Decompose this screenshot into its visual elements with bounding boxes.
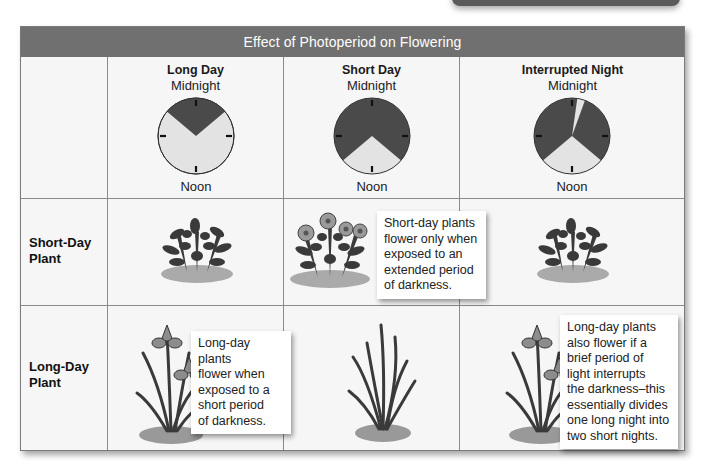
callout-line: light interrupts: [567, 367, 671, 383]
photoperiod-table: Effect of Photoperiod on Flowering Long …: [20, 26, 685, 451]
row-divider: [21, 198, 684, 199]
leafy-plant-no-flowers-icon: [343, 317, 423, 447]
column-header-interrupted-night: Interrupted Night Midnight: [460, 63, 685, 93]
callout-line: one long night into: [567, 413, 671, 429]
callout-line: Long-day plants: [198, 336, 284, 367]
row-label-short-day-plant: Short-Day Plant: [29, 235, 91, 267]
callout-line: Long-day plants: [567, 320, 671, 336]
callout-short-day: Short-day plants flower only when expose…: [377, 211, 486, 299]
callout-line: the darkness–this: [567, 382, 671, 398]
row-label-long-day-plant: Long-Day Plant: [29, 359, 89, 391]
callout-line: essentially divides: [567, 398, 671, 414]
callout-line: flower only when: [384, 232, 479, 248]
midnight-label: Midnight: [284, 78, 459, 93]
flowering-bush-plant-icon: [286, 207, 374, 291]
noon-label: Noon: [156, 179, 236, 194]
callout-line: also flower if a: [567, 336, 671, 352]
row-label-line: Long-Day: [29, 359, 89, 375]
row-label-line: Plant: [29, 375, 89, 391]
row-label-line: Plant: [29, 251, 91, 267]
callout-line: two short nights.: [567, 429, 671, 445]
callout-line: of darkness.: [384, 278, 479, 294]
callout-line: flower when: [198, 367, 284, 383]
short-day-clock-icon: [332, 96, 412, 176]
callout-long-day: Long-day plants flower when exposed to a…: [191, 331, 291, 434]
callout-line: extended period: [384, 263, 479, 279]
row-label-line: Short-Day: [29, 235, 91, 251]
decorative-top-bar: [452, 0, 680, 6]
column-title: Long Day: [108, 63, 283, 78]
bush-plant-icon: [157, 212, 237, 287]
callout-line: of darkness.: [198, 414, 284, 430]
interrupted-night-clock-icon: [532, 96, 612, 176]
bush-plant-icon: [533, 212, 613, 287]
column-title: Short Day: [284, 63, 459, 78]
long-day-clock-icon: [156, 96, 236, 176]
column-header-long-day: Long Day Midnight: [108, 63, 283, 93]
callout-line: exposed to an: [384, 247, 479, 263]
column-title: Interrupted Night: [460, 63, 685, 78]
table-title: Effect of Photoperiod on Flowering: [21, 27, 684, 57]
midnight-label: Midnight: [460, 78, 685, 93]
callout-interrupted-night: Long-day plants also flower if a brief p…: [560, 315, 678, 449]
column-header-short-day: Short Day Midnight: [284, 63, 459, 93]
midnight-label: Midnight: [108, 78, 283, 93]
column-divider: [107, 57, 108, 450]
callout-line: brief period of: [567, 351, 671, 367]
noon-label: Noon: [332, 179, 412, 194]
callout-line: Short-day plants: [384, 216, 479, 232]
callout-line: exposed to a: [198, 383, 284, 399]
callout-line: short period: [198, 398, 284, 414]
row-divider: [21, 305, 684, 306]
noon-label: Noon: [532, 179, 612, 194]
